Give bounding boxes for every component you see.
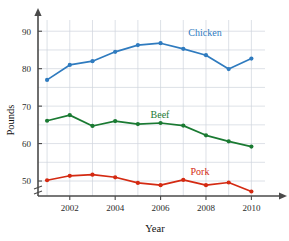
x-axis-tick-label: 2006: [152, 203, 171, 213]
y-axis-tick-label: 90: [22, 27, 32, 37]
data-point: [68, 174, 72, 178]
data-point: [249, 56, 253, 60]
data-point: [249, 144, 253, 148]
data-point: [45, 78, 49, 82]
data-point: [136, 181, 140, 185]
data-point: [90, 59, 94, 63]
x-axis-tick-label: 2002: [61, 203, 79, 213]
data-point: [113, 50, 117, 54]
data-point: [181, 178, 185, 182]
y-axis-tick-label: 80: [22, 64, 32, 74]
data-point: [158, 41, 162, 45]
data-point: [227, 180, 231, 184]
data-point: [136, 43, 140, 47]
data-point: [204, 183, 208, 187]
data-point: [204, 133, 208, 137]
data-point: [113, 119, 117, 123]
data-point: [68, 113, 72, 117]
data-point: [204, 53, 208, 57]
line-chart: 5060708090 20022004200620082010 ChickenB…: [0, 0, 289, 241]
data-point: [90, 124, 94, 128]
x-axis-tick-label: 2010: [242, 203, 261, 213]
y-axis-tick-label: 60: [22, 139, 32, 149]
data-point: [45, 119, 49, 123]
x-axis-tick-label: 2008: [197, 203, 216, 213]
y-axis-tick-label: 50: [22, 176, 32, 186]
data-point: [249, 189, 253, 193]
x-axis-title: Year: [145, 223, 165, 234]
data-point: [68, 63, 72, 67]
y-axis-tick-label: 70: [22, 102, 32, 112]
series-label-beef: Beef: [151, 109, 171, 120]
data-point: [136, 122, 140, 126]
y-axis-title: Pounds: [5, 105, 16, 136]
data-point: [45, 178, 49, 182]
data-point: [113, 175, 117, 179]
data-point: [158, 121, 162, 125]
data-point: [227, 139, 231, 143]
series-label-chicken: Chicken: [188, 27, 221, 38]
data-point: [227, 67, 231, 71]
series-label-pork: Pork: [191, 166, 210, 177]
data-point: [158, 183, 162, 187]
chart-canvas: 5060708090 20022004200620082010 ChickenB…: [0, 0, 289, 241]
data-point: [181, 124, 185, 128]
data-point: [181, 47, 185, 51]
data-point: [90, 173, 94, 177]
x-axis-tick-label: 2004: [106, 203, 125, 213]
